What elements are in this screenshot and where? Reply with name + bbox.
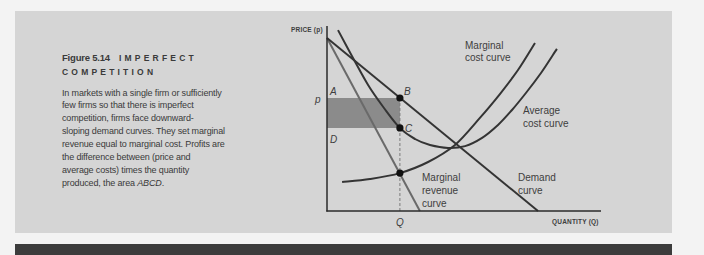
- ac-label-line2: cost curve: [523, 118, 569, 129]
- mr-label-line2: revenue: [422, 185, 459, 196]
- point-b-label: B: [404, 86, 411, 97]
- mc-label-line1: Marginal: [465, 40, 503, 51]
- mc-label-line2: cost curve: [465, 52, 511, 63]
- corner-a-label: A: [329, 86, 337, 97]
- profit-area-abcd: [327, 98, 400, 128]
- demand-label-line2: curve: [518, 185, 543, 196]
- economics-chart: PRICE (p) QUANTITY (Q) p A B C D Q Margi…: [0, 0, 704, 255]
- mr-label-line3: curve: [422, 198, 447, 209]
- mr-label-line1: Marginal: [422, 172, 460, 183]
- point-c-label: C: [405, 123, 413, 134]
- point-b-marker: [396, 94, 403, 101]
- price-p-label: p: [314, 94, 321, 105]
- corner-d-label: D: [330, 134, 337, 145]
- quantity-q-label: Q: [396, 217, 404, 228]
- mr-mc-intersection-marker: [396, 170, 403, 177]
- average-cost-curve: [338, 30, 557, 148]
- y-axis-label: PRICE (p): [291, 26, 323, 34]
- x-axis-label: QUANTITY (Q): [552, 218, 599, 226]
- demand-label-line1: Demand: [518, 172, 556, 183]
- point-c-marker: [396, 124, 403, 131]
- ac-label-line1: Average: [523, 105, 561, 116]
